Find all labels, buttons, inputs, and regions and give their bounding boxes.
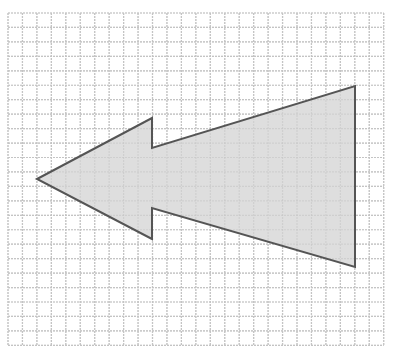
grid-diagram [0, 0, 400, 355]
